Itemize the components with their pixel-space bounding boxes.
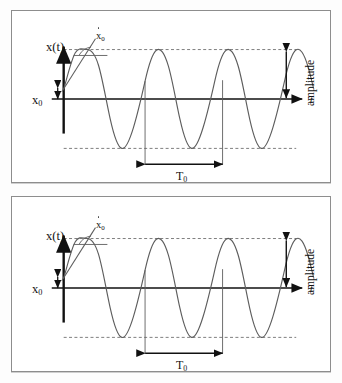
plot-area-bottom: x(t) x0 x0 t amplitude T0 <box>12 197 330 371</box>
plot-area-top: x(t) x0 x0 t amplitude T0 <box>12 11 330 182</box>
period-label: T0 <box>176 359 187 373</box>
initial-velocity-tangent-bottom <box>62 228 96 281</box>
plot-svg-bottom <box>12 197 330 371</box>
period-label: T0 <box>176 170 187 184</box>
y-axis-label: x(t) <box>46 230 64 243</box>
vibration-plot-panel-top: x(t) x0 x0 t amplitude T0 <box>11 10 331 183</box>
amplitude-label: amplitude <box>305 249 317 295</box>
initial-displacement-label: x0 <box>32 283 42 298</box>
plot-svg-top <box>12 11 330 182</box>
figure-page: x(t) x0 x0 t amplitude T0 <box>0 0 342 383</box>
initial-velocity-label: x0 <box>96 220 105 232</box>
initial-velocity-tangent-top <box>62 39 96 92</box>
y-axis-label: x(t) <box>46 41 64 54</box>
amplitude-label: amplitude <box>305 60 317 106</box>
initial-displacement-label: x0 <box>32 94 42 109</box>
vibration-plot-panel-bottom: x(t) x0 x0 t amplitude T0 <box>11 196 331 372</box>
initial-velocity-label: x0 <box>96 31 105 43</box>
